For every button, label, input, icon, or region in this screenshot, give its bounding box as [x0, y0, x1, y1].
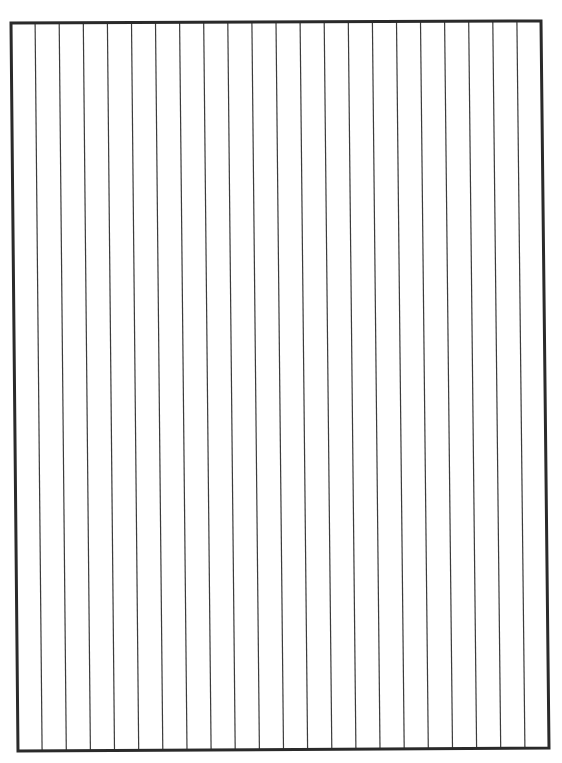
- rule-line: [517, 21, 525, 748]
- rule-line: [228, 22, 235, 750]
- rule-line: [276, 22, 284, 750]
- ruled-grid: [0, 0, 562, 763]
- rule-line: [421, 22, 429, 749]
- rule-line: [180, 22, 187, 750]
- rule-line: [469, 21, 477, 748]
- rule-line: [397, 22, 405, 749]
- rule-line: [204, 22, 211, 750]
- rule-line: [324, 22, 332, 749]
- rule-line: [252, 22, 260, 750]
- rule-line: [372, 22, 380, 749]
- ruled-sheet: [0, 0, 562, 763]
- rule-line: [107, 23, 114, 751]
- vertical-rule-lines: [35, 21, 525, 751]
- rule-line: [348, 22, 356, 749]
- rule-line: [156, 23, 163, 751]
- rule-line: [132, 23, 139, 751]
- rule-line: [445, 21, 453, 748]
- rule-line: [493, 21, 501, 748]
- rule-line: [83, 23, 90, 751]
- rule-line: [35, 23, 42, 751]
- rule-line: [59, 23, 66, 751]
- rule-line: [300, 22, 308, 750]
